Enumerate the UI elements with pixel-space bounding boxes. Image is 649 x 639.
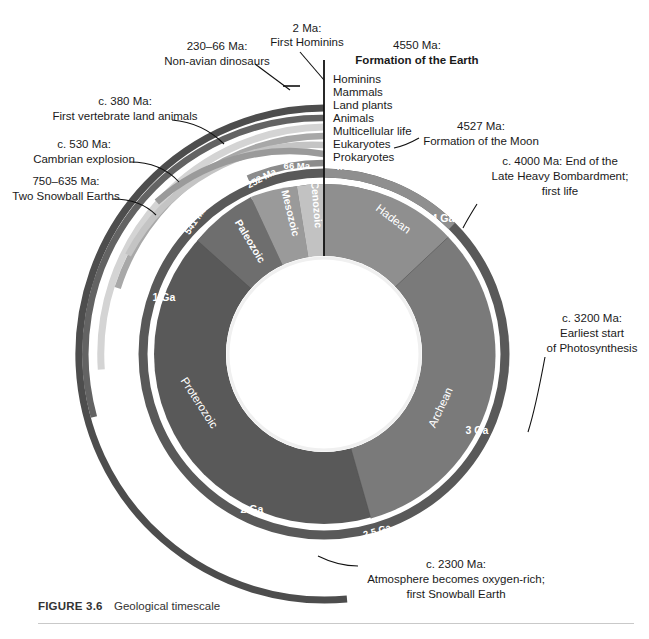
legend-item-mammals: Mammals bbox=[333, 86, 383, 98]
annotation-oxygen-line3: first Snowball Earth bbox=[406, 588, 505, 600]
annotation-moon-line1: 4527 Ma: bbox=[457, 120, 505, 132]
legend-title: Formation of the Earth bbox=[355, 54, 478, 66]
annotation-oxygen-line2: Atmosphere becomes oxygen-rich; bbox=[367, 573, 545, 585]
annotation-photosynthesis-line1: c. 3200 Ma: bbox=[562, 312, 622, 324]
annotation-photosynthesis-line3: of Photosynthesis bbox=[547, 342, 638, 354]
figure-caption-text: Geological timescale bbox=[114, 600, 220, 612]
tick-1-ga: 1 Ga bbox=[153, 291, 176, 303]
legend-item-multicellular: Multicellular life bbox=[333, 125, 412, 137]
annotation-lhb-line2: Late Heavy Bombardment; bbox=[492, 170, 629, 182]
annotation-dinosaurs-line1: 230–66 Ma: bbox=[187, 40, 248, 52]
annotation-land-animals-line2: First vertebrate land animals bbox=[52, 110, 197, 122]
annotation-snowball-line2: Two Snowball Earths bbox=[12, 190, 120, 202]
caption-divider bbox=[38, 623, 634, 624]
annotation-lhb-line3: first life bbox=[542, 185, 578, 197]
annotation-lhb-line1: c. 4000 Ma: End of the bbox=[502, 155, 618, 167]
tick-3-ga: 3 Ga bbox=[466, 424, 489, 436]
annotation-hominins-line1: 2 Ma: bbox=[293, 22, 322, 34]
annotation-cambrian-line2: Cambrian explosion bbox=[33, 153, 135, 165]
geological-timescale-figure: Hadean Archean Proterozoic Paleozoic Mes… bbox=[0, 0, 649, 639]
annotation-oxygen-line1: c. 2300 Ma: bbox=[426, 558, 486, 570]
annotation-cambrian-line1: c. 530 Ma: bbox=[57, 138, 111, 150]
figure-number: FIGURE 3.6 bbox=[38, 600, 103, 612]
tick-4-ga: 4 Ga bbox=[432, 212, 455, 224]
annotation-moon-line2: Formation of the Moon bbox=[423, 135, 539, 147]
legend-item-prokaryotes: Prokaryotes bbox=[333, 151, 395, 163]
annotation-photosynthesis-line2: Earliest start bbox=[560, 327, 625, 339]
annotation-land-animals-line1: c. 380 Ma: bbox=[98, 95, 152, 107]
tick-66-ma: 66 Ma bbox=[284, 160, 311, 171]
legend-age: 4550 Ma: bbox=[393, 39, 441, 51]
tick-2-ga: 2 Ga bbox=[241, 503, 264, 515]
annotation-dinosaurs-line2: Non-avian dinosaurs bbox=[164, 55, 270, 67]
legend-item-animals: Animals bbox=[333, 112, 374, 124]
legend-item-eukaryotes: Eukaryotes bbox=[333, 138, 391, 150]
annotation-hominins-line2: First Hominins bbox=[270, 36, 344, 48]
annotation-snowball-line1: 750–635 Ma: bbox=[32, 175, 99, 187]
legend-item-land-plants: Land plants bbox=[333, 99, 393, 111]
legend-item-hominins: Hominins bbox=[333, 73, 381, 85]
